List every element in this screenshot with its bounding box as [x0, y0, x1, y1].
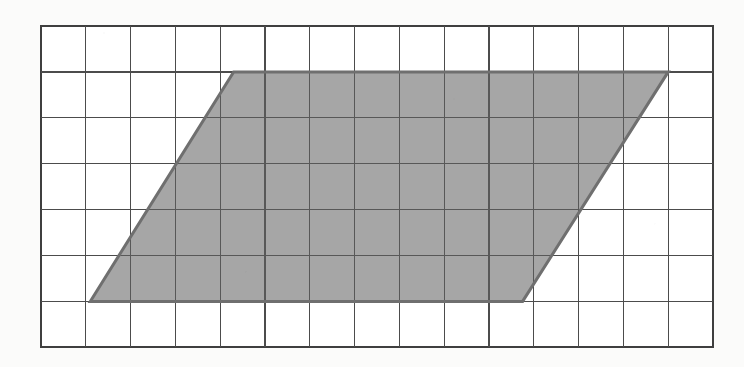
parallelogram-figure: Shaded parallelogram on a square grid A …: [0, 0, 744, 367]
figure-canvas: Shaded parallelogram on a square grid A …: [0, 0, 744, 367]
